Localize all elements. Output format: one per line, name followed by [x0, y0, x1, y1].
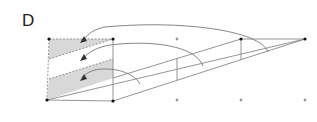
shaded-region-bottom: [47, 59, 113, 100]
shear-diagram: [0, 0, 317, 122]
